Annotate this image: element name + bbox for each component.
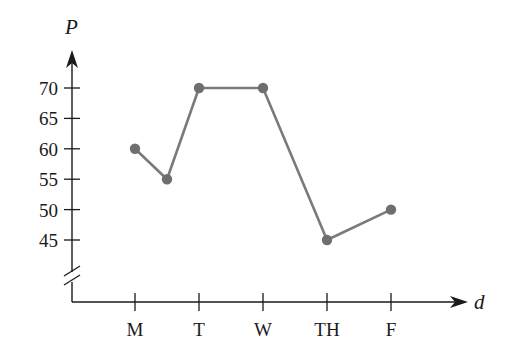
data-point-marker (322, 235, 332, 245)
x-tick-label: W (254, 319, 272, 340)
x-tick-label: T (193, 319, 205, 340)
y-tick-label: 60 (39, 139, 58, 160)
axes: Pd455055606570MTWTHF (39, 15, 485, 340)
data-point-marker (194, 83, 204, 93)
y-tick-label: 70 (39, 78, 58, 99)
y-axis-title: P (64, 15, 78, 39)
x-axis-title: d (474, 290, 485, 314)
series-line (135, 88, 391, 240)
y-tick-label: 50 (39, 200, 58, 221)
data-series (130, 83, 396, 245)
y-tick-label: 65 (39, 108, 58, 129)
x-tick-label: M (127, 319, 144, 340)
y-tick-label: 55 (39, 169, 58, 190)
data-point-marker (386, 204, 396, 214)
y-tick-label: 45 (39, 230, 58, 251)
line-chart: Pd455055606570MTWTHF (0, 0, 516, 358)
x-tick-label: F (386, 319, 397, 340)
data-point-marker (162, 174, 172, 184)
data-point-marker (258, 83, 268, 93)
data-point-marker (130, 144, 140, 154)
x-tick-label: TH (314, 319, 340, 340)
